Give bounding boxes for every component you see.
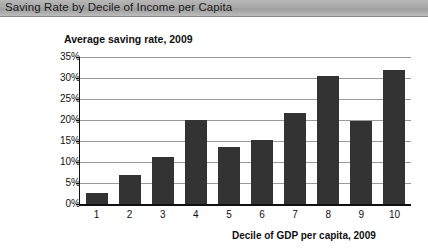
y-axis-tick-label: 5%	[40, 177, 80, 188]
gridline	[80, 57, 411, 58]
bar	[185, 120, 207, 204]
bar	[350, 121, 372, 204]
x-axis-tick-label: 8	[313, 209, 343, 220]
x-axis-tick-label: 9	[346, 209, 376, 220]
gridline	[80, 78, 411, 79]
page-title: Saving Rate by Decile of Income per Capi…	[5, 1, 232, 13]
x-axis-tick-label: 3	[148, 209, 178, 220]
x-axis-tick-label: 10	[379, 209, 409, 220]
x-axis-title: Decile of GDP per capita, 2009	[232, 230, 376, 241]
y-axis-tick-label: 10%	[40, 156, 80, 167]
x-axis-tick-label: 7	[280, 209, 310, 220]
x-axis-tick-label: 6	[247, 209, 277, 220]
bar	[284, 113, 306, 204]
bar	[317, 76, 339, 204]
y-axis-tick-label: 25%	[40, 93, 80, 104]
x-axis-tick-label: 4	[181, 209, 211, 220]
bar	[218, 147, 240, 204]
y-axis-tick-labels: 0%5%10%15%20%25%30%35%	[36, 57, 80, 204]
y-axis-tick-label: 35%	[40, 51, 80, 62]
y-axis-tick-label: 30%	[40, 72, 80, 83]
y-axis-tick-label: 20%	[40, 114, 80, 125]
bar	[152, 157, 174, 204]
y-axis-tick-label: 15%	[40, 135, 80, 146]
x-axis-tick-label: 5	[214, 209, 244, 220]
bar	[251, 140, 273, 204]
plot-area: 12345678910	[80, 57, 411, 204]
y-axis-title: Average saving rate, 2009	[64, 33, 193, 45]
x-axis-line	[79, 204, 411, 206]
bar	[119, 175, 141, 204]
y-axis-tick-label: 0%	[40, 198, 80, 209]
x-axis-tick-label: 2	[115, 209, 145, 220]
chart-canvas: Average saving rate, 2009 0%5%10%15%20%2…	[0, 17, 428, 252]
chart-title-bar: Saving Rate by Decile of Income per Capi…	[0, 0, 428, 17]
bar	[86, 193, 108, 204]
x-axis-tick-label: 1	[82, 209, 112, 220]
bar	[383, 70, 405, 204]
y-axis-line	[79, 57, 80, 205]
gridline	[80, 99, 411, 100]
